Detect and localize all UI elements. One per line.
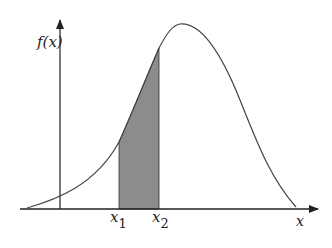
x-axis-label: x [296, 214, 304, 228]
density-curve [27, 24, 296, 208]
x1-label: x1 [110, 210, 127, 225]
y-axis-label: f(x) [37, 35, 63, 50]
x2-label: x2 [152, 210, 169, 225]
x2-label-subscript: 2 [160, 216, 168, 231]
x1-label-subscript: 1 [118, 216, 126, 231]
